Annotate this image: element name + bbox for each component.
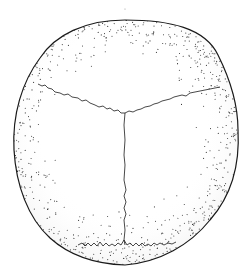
stray-dot — [124, 8, 125, 9]
illustration-canvas — [0, 0, 247, 278]
stipple-shading — [0, 0, 247, 278]
skull-illustration — [0, 0, 247, 278]
